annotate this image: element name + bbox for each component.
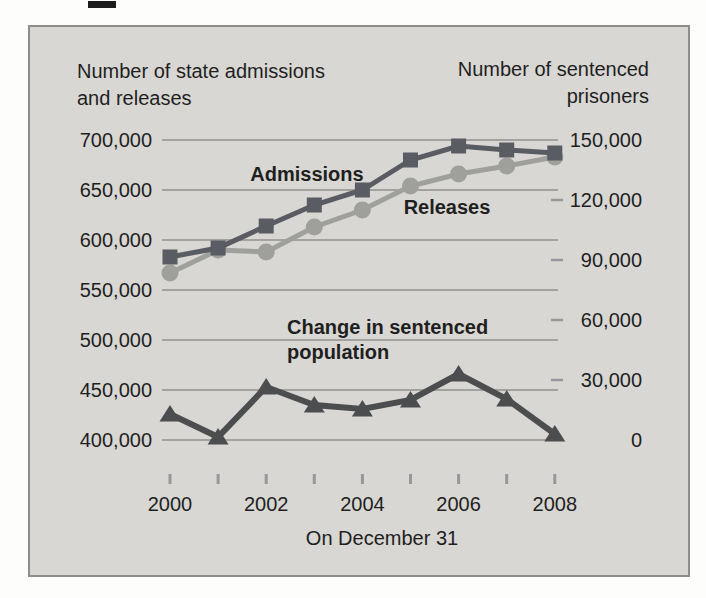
x-axis-tick-label: 2006 xyxy=(424,493,494,516)
right-axis-title: Number of sentenced prisoners xyxy=(369,56,649,110)
change-series-label-line1: Change in sentenced xyxy=(287,315,537,340)
circle-marker xyxy=(162,265,179,282)
square-marker xyxy=(451,139,466,154)
left-axis-tick-label: 650,000 xyxy=(58,178,152,202)
x-axis-tick-label: 2002 xyxy=(231,493,301,516)
x-axis-tick-label: 2008 xyxy=(520,493,590,516)
circle-marker xyxy=(354,202,371,219)
right-axis-tick-label: 90,000 xyxy=(560,248,642,272)
left-axis-tick-label: 500,000 xyxy=(58,328,152,352)
x-axis-tick-label: 2004 xyxy=(327,493,397,516)
admissions-series-label: Admissions xyxy=(217,162,397,187)
right-axis-tick-label: 60,000 xyxy=(560,308,642,332)
releases-series-label: Releases xyxy=(377,195,517,220)
circle-marker xyxy=(306,219,323,236)
right-axis-title-line1: Number of sentenced xyxy=(369,56,649,83)
square-marker xyxy=(499,143,514,158)
left-axis-tick-label: 550,000 xyxy=(58,278,152,302)
square-marker xyxy=(403,153,418,168)
square-marker xyxy=(211,241,226,256)
triangle-marker xyxy=(160,405,181,422)
page: { "chart_data": { "type": "line", "x": [… xyxy=(0,0,706,598)
left-axis-title-line1: Number of state admissions xyxy=(77,58,325,85)
triangle-marker xyxy=(256,378,277,395)
circle-marker xyxy=(258,244,275,261)
right-axis-tick-label: 30,000 xyxy=(560,368,642,392)
right-axis-tick-label: 120,000 xyxy=(560,188,642,212)
left-axis-tick-label: 450,000 xyxy=(58,378,152,402)
x-axis-tick-label: 2000 xyxy=(135,493,205,516)
right-axis-title-line2: prisoners xyxy=(369,83,649,110)
triangle-marker xyxy=(448,365,469,382)
right-axis-tick-label: 150,000 xyxy=(560,128,642,152)
left-axis-tick-label: 700,000 xyxy=(58,128,152,152)
left-axis-tick-label: 400,000 xyxy=(58,428,152,452)
left-axis-title-line2: and releases xyxy=(77,85,325,112)
right-axis-tick-label: 0 xyxy=(560,428,642,452)
circle-marker xyxy=(498,158,515,175)
circle-marker xyxy=(450,166,467,183)
left-axis-title: Number of state admissions and releases xyxy=(77,58,325,112)
circle-marker xyxy=(402,178,419,195)
left-axis-tick-label: 600,000 xyxy=(58,228,152,252)
chart-panel: Number of state admissions and releases … xyxy=(28,25,690,577)
change-series-label-line2: population xyxy=(287,340,537,365)
scan-artifact-mark xyxy=(88,1,116,8)
x-axis-label: On December 31 xyxy=(272,527,492,550)
square-marker xyxy=(307,198,322,213)
square-marker xyxy=(163,250,178,265)
square-marker xyxy=(259,219,274,234)
change-series-label: Change in sentenced population xyxy=(287,315,537,365)
